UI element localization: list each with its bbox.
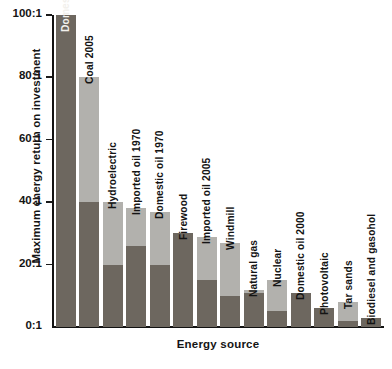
y-tick-mark (46, 264, 52, 266)
bar-imported-oil-2005[interactable] (197, 237, 217, 327)
bar-firewood[interactable] (173, 233, 193, 327)
y-tick-mark (46, 201, 52, 203)
bar-segment-lower (197, 280, 217, 327)
bar-windmill[interactable] (220, 243, 240, 327)
bar-segment-upper (197, 237, 217, 281)
y-tick-mark (46, 139, 52, 141)
bar-segment-lower (173, 233, 193, 327)
bar-imported-oil-1970[interactable] (126, 208, 146, 327)
bar-biodiesel-and-gasohol[interactable] (361, 318, 381, 327)
bar-coal-2005[interactable] (79, 77, 99, 327)
y-tick-mark (46, 76, 52, 78)
y-tick-label-100-1: 100:1 (4, 8, 42, 20)
bar-hydroelectric[interactable] (103, 202, 123, 327)
y-axis-tick-labels: 0:120:140:160:180:1100:1 (0, 0, 42, 369)
bar-segment-upper (267, 280, 287, 311)
bar-segment-lower (314, 308, 334, 327)
plot-area (54, 15, 384, 327)
bar-segment-lower (220, 296, 240, 327)
y-tick-label-20-1: 20:1 (4, 258, 42, 270)
bar-segment-upper (338, 302, 358, 321)
bar-tar-sands[interactable] (338, 302, 358, 327)
bar-segment-lower (361, 318, 381, 327)
bar-segment-lower (150, 265, 170, 327)
bar-domestic-oil-1970[interactable] (150, 212, 170, 327)
bar-domestic-oil-1930[interactable] (56, 15, 76, 327)
bar-segment-upper (103, 202, 123, 264)
bar-segment-upper (150, 212, 170, 265)
eroi-bar-chart: Maximum energy return on investment 0:12… (0, 0, 392, 369)
x-axis-title: Energy source (52, 338, 384, 350)
bar-segment-lower (103, 265, 123, 327)
bar-segment-upper (220, 243, 240, 296)
bar-segment-lower (267, 311, 287, 327)
bar-segment-lower (291, 293, 311, 327)
bar-segment-lower (126, 246, 146, 327)
bar-segment-upper (126, 208, 146, 245)
bar-segment-upper (79, 77, 99, 202)
y-tick-label-80-1: 80:1 (4, 70, 42, 82)
bar-segment-lower (79, 202, 99, 327)
bar-segment-lower (244, 293, 264, 327)
y-tick-label-0-1: 0:1 (4, 320, 42, 332)
y-tick-mark (46, 14, 52, 16)
y-tick-label-40-1: 40:1 (4, 195, 42, 207)
bar-nuclear[interactable] (267, 280, 287, 327)
bar-segment-lower (338, 321, 358, 327)
y-tick-label-60-1: 60:1 (4, 133, 42, 145)
bar-natural-gas[interactable] (244, 290, 264, 327)
bar-photovoltaic[interactable] (314, 308, 334, 327)
bar-segment-lower (56, 15, 76, 327)
bar-domestic-oil-2000[interactable] (291, 293, 311, 327)
